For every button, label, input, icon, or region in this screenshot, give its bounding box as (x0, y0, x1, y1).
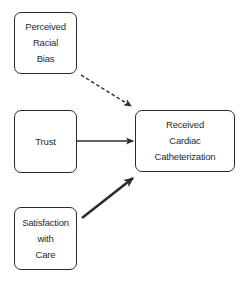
node-label-line: Racial (33, 35, 58, 51)
dashed-arrow-icon (81, 75, 131, 106)
node-label-line: with (37, 231, 53, 247)
node-satisfaction-with-care: Satisfaction with Care (14, 207, 77, 270)
node-label-line: Perceived (25, 19, 65, 35)
node-label-line: Satisfaction (22, 215, 69, 231)
node-label-line: Bias (37, 51, 55, 67)
thick-arrow-icon (82, 178, 133, 218)
edge-satisfaction-to-catheterization (82, 178, 133, 218)
path-diagram: Perceived Racial Bias Trust Satisfaction… (0, 0, 244, 286)
node-label-line: Cardiac (169, 133, 200, 149)
node-label-line: Catheterization (155, 149, 216, 165)
node-perceived-racial-bias: Perceived Racial Bias (14, 12, 77, 74)
node-label-line: Trust (35, 134, 55, 150)
node-label-line: Received (166, 117, 204, 133)
node-trust: Trust (14, 110, 77, 173)
node-label-line: Care (36, 247, 56, 263)
node-received-cardiac-catheterization: Received Cardiac Catheterization (135, 110, 235, 172)
edge-bias-to-catheterization (81, 75, 131, 106)
